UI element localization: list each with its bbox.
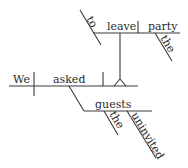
object-connector-line bbox=[69, 86, 84, 111]
object-word: guests bbox=[95, 98, 132, 111]
object-modifier-word-1: the bbox=[106, 109, 126, 131]
infinitive-object-word: party bbox=[148, 20, 178, 33]
object-modifier-word-2: uninvited bbox=[128, 110, 166, 162]
pedestal-right-foot bbox=[120, 79, 126, 86]
verb-word: asked bbox=[53, 73, 85, 86]
subject-word: We bbox=[13, 73, 30, 86]
pedestal-left-foot bbox=[114, 79, 120, 86]
infinitive-marker-word: to bbox=[83, 14, 100, 30]
sentence-diagram: We asked to leave party the guests the u… bbox=[0, 0, 188, 168]
infinitive-verb-word: leave bbox=[107, 20, 136, 33]
infinitive-object-modifier-word: the bbox=[157, 33, 177, 55]
